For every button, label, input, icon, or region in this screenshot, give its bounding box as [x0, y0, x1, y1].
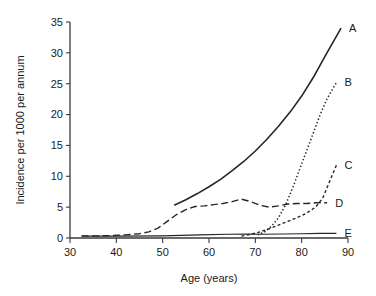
y-axis-title: Incidence per 1000 per annum: [14, 55, 26, 204]
y-tick-label: 35: [51, 16, 63, 28]
x-tick-label: 90: [342, 246, 354, 258]
x-tick-label: 50: [157, 246, 169, 258]
y-tick-label: 15: [51, 139, 63, 151]
x-tick-label: 60: [203, 246, 215, 258]
series-label-d: D: [335, 197, 343, 209]
x-tick-label: 70: [249, 246, 261, 258]
x-tick-label: 40: [110, 246, 122, 258]
y-tick-label: 30: [51, 47, 63, 59]
x-axis-title: Age (years): [181, 272, 238, 284]
x-tick-label: 30: [64, 246, 76, 258]
series-label-c: C: [344, 159, 352, 171]
y-tick-label: 0: [57, 232, 63, 244]
series-label-a: A: [349, 22, 357, 34]
y-tick-label: 5: [57, 201, 63, 213]
y-tick-label: 10: [51, 170, 63, 182]
y-tick-label: 20: [51, 108, 63, 120]
chart-container: 05101520253035 30405060708090 ABCDE Age …: [0, 0, 376, 296]
y-tick-label: 25: [51, 78, 63, 90]
series-label-b: B: [344, 76, 351, 88]
series-label-e: E: [344, 227, 351, 239]
x-tick-label: 80: [296, 246, 308, 258]
incidence-by-age-line-chart: 05101520253035 30405060708090 ABCDE Age …: [0, 0, 376, 296]
